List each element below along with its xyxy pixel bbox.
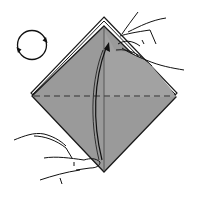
rotate-clockwise-icon (17, 31, 48, 60)
origami-diagram (0, 0, 201, 198)
